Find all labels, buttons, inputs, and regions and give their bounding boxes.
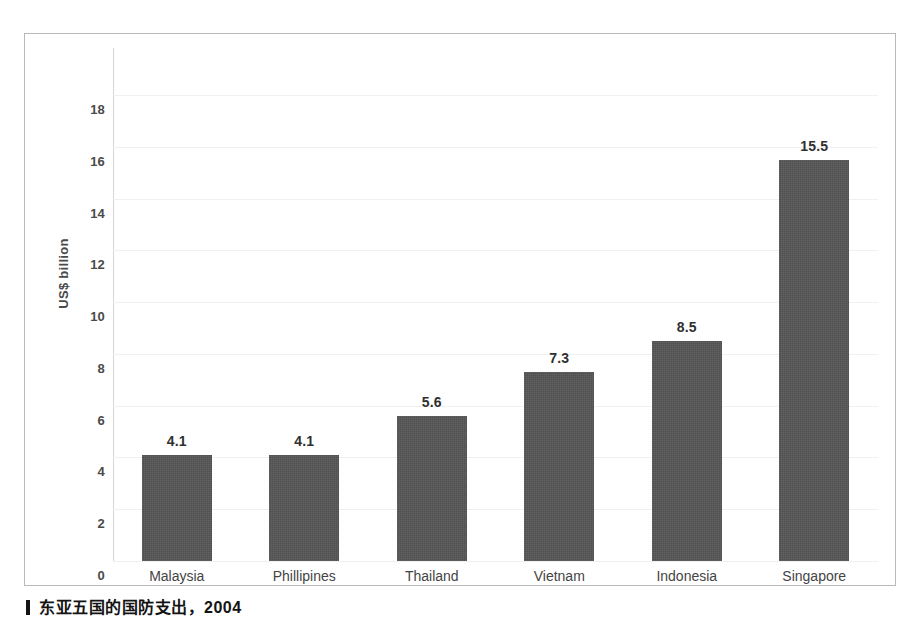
y-axis-tick-labels: 18 16 14 12 10 8 6 4 2 0 <box>69 48 105 561</box>
bar-value-label: 4.1 <box>167 433 187 449</box>
y-tick-label: 16 <box>71 153 105 168</box>
bar-slot: 4.1 <box>241 48 369 561</box>
y-tick-label: 18 <box>71 102 105 117</box>
category-label-singapore: Singapore <box>751 568 879 584</box>
figure-caption: 东亚五国的国防支出，2004 <box>26 594 886 618</box>
bar-value-label: 5.6 <box>422 394 442 410</box>
y-tick-label: 10 <box>71 309 105 324</box>
y-tick-label: 6 <box>71 412 105 427</box>
bar[interactable] <box>142 455 212 561</box>
bar[interactable] <box>269 455 339 561</box>
y-tick-label: 14 <box>71 205 105 220</box>
category-label-thailand: Thailand <box>368 568 496 584</box>
category-label-indonesia: Indonesia <box>623 568 751 584</box>
bar[interactable] <box>524 372 594 561</box>
caption-marker <box>26 600 30 615</box>
bar-value-label: 8.5 <box>677 319 697 335</box>
y-tick-label: 8 <box>71 360 105 375</box>
bar[interactable] <box>397 416 467 561</box>
gridline <box>113 561 878 562</box>
bar-value-label: 4.1 <box>294 433 314 449</box>
bar-slot: 4.1 <box>113 48 241 561</box>
bar-value-label: 15.5 <box>800 138 828 154</box>
bar-value-label: 7.3 <box>549 350 569 366</box>
y-tick-label: 4 <box>71 464 105 479</box>
category-label-phillipines: Phillipines <box>241 568 369 584</box>
bar[interactable] <box>652 341 722 561</box>
y-tick-label: 0 <box>71 568 105 583</box>
bar[interactable] <box>779 160 849 561</box>
plot-area: 4.1 4.1 5.6 7.3 8.5 15.5 <box>113 48 878 561</box>
y-tick-label: 2 <box>71 516 105 531</box>
bar-slot: 8.5 <box>623 48 751 561</box>
y-tick-label: 12 <box>71 257 105 272</box>
caption-text: 东亚五国的国防支出，2004 <box>39 599 242 616</box>
category-label-malaysia: Malaysia <box>113 568 241 584</box>
category-label-vietnam: Vietnam <box>496 568 624 584</box>
bar-slot: 7.3 <box>496 48 624 561</box>
bar-slot: 15.5 <box>751 48 879 561</box>
bar-slot: 5.6 <box>368 48 496 561</box>
chart-figure-frame: US$ billion 18 16 14 12 10 8 6 4 2 0 4.1… <box>24 33 896 586</box>
